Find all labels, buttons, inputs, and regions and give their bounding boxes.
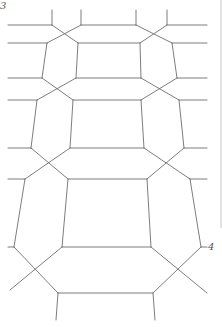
mesh-edge: [31, 100, 37, 148]
mesh-edge: [76, 43, 78, 78]
mesh-edge: [179, 100, 184, 148]
mesh-edge: [52, 25, 78, 43]
tessellation-drawing: [0, 0, 222, 327]
mesh-edge: [141, 100, 144, 148]
mesh-edge: [70, 100, 73, 148]
mesh-edge: [56, 293, 58, 320]
mesh-edge: [140, 43, 141, 78]
mesh-edge: [42, 78, 73, 100]
mesh-edge: [172, 43, 177, 78]
mesh-edge: [14, 179, 25, 247]
mesh-edge: [144, 148, 190, 179]
mesh-edge: [10, 247, 62, 290]
mesh-edge: [140, 25, 167, 43]
mesh-edge: [153, 293, 155, 320]
mesh-edge: [25, 148, 70, 179]
label-4: 4: [208, 241, 214, 252]
mesh-edge: [37, 78, 76, 100]
mesh-edge: [14, 247, 58, 293]
mesh-edge: [153, 247, 201, 293]
mesh-diagram: 3 4: [0, 0, 222, 327]
mesh-edge: [42, 43, 47, 78]
mesh-edge: [151, 247, 207, 293]
mesh-edge: [190, 179, 201, 247]
mesh-edge: [31, 148, 68, 179]
label-3: 3: [0, 0, 6, 11]
mesh-edge: [62, 179, 68, 247]
mesh-edge: [147, 179, 151, 247]
mesh-edge: [147, 148, 184, 179]
mesh-edge: [47, 25, 81, 43]
